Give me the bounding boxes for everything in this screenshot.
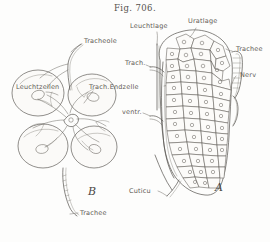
panel-b-drawing [12,44,117,216]
label-nerv: Nerv [240,72,256,79]
label-leuchtzellen: Leuchtzellen [16,84,59,91]
label-trachee-bottom: Trachee [80,210,107,217]
panel-a-drawing [150,30,242,197]
figure-container: Fig. 706. .ln { fill:none; stroke:#55524… [0,0,270,242]
label-trach-endzelle: Trach.Endzelle [89,84,139,91]
label-leuchtlage: Leuchtlage [130,23,168,30]
panel-letter-b: B [88,185,96,198]
figure-illustration: .ln { fill:none; stroke:#55524d; stroke-… [0,0,270,242]
label-cuticula: Cuticu [129,188,151,195]
label-tracheole: Tracheole [84,38,117,45]
panel-letter-a: A [215,181,223,194]
label-ventr: ventr. [122,109,142,116]
label-uratlage: Uratlage [188,18,217,25]
label-trach-middle: Trach. [125,60,146,67]
label-trachee-right: Trachee [236,46,263,53]
